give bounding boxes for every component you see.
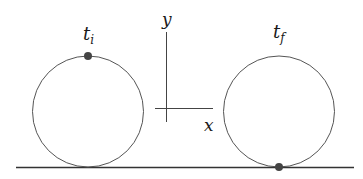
rolling-wheel-diagram: y x ti tf <box>0 0 363 179</box>
wheel-final <box>224 56 335 167</box>
wheel-initial <box>33 56 144 167</box>
y-axis-label: y <box>161 9 172 29</box>
marker-point-initial <box>84 52 92 60</box>
final-time-label: tf <box>273 21 287 45</box>
marker-point-final <box>275 163 283 171</box>
initial-time-label: ti <box>83 23 94 47</box>
x-axis-label: x <box>204 115 214 135</box>
